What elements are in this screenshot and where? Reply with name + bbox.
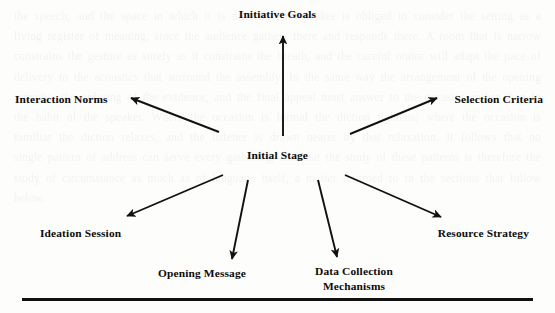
node-selection-criteria: Selection Criteria [455,92,543,107]
node-resource-strategy: Resource Strategy [438,226,529,241]
node-ideation-session: Ideation Session [40,226,121,241]
arrow-to-selection-criteria [350,98,437,134]
arrow-to-interaction-norms [131,98,219,132]
node-data-collection-line2: Mechanisms [323,280,385,292]
bottom-horizontal-rule [22,298,533,301]
arrow-to-opening-message [232,180,248,259]
diagram-page: the speech, and the space in which it is… [0,0,555,313]
node-opening-message: Opening Message [158,266,246,281]
arrow-to-data-collection [318,180,337,257]
arrow-to-resource-strategy [345,175,441,217]
node-initiative-goals: Initiative Goals [239,7,316,22]
node-data-collection-line1: Data Collection [315,265,393,277]
node-initial-stage: Initial Stage [247,148,308,163]
node-data-collection-mechanisms: Data Collection Mechanisms [305,264,403,293]
node-interaction-norms: Interaction Norms [15,92,108,107]
arrow-to-ideation-session [127,175,223,216]
